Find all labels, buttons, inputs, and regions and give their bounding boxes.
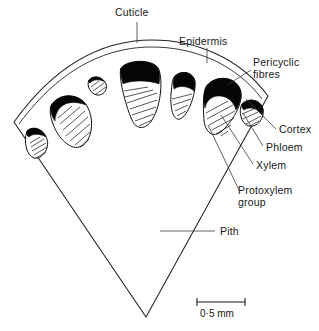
label-cuticle: Cuticle (115, 6, 149, 18)
bundle-right-inner (171, 72, 195, 119)
bundle-far-left (25, 128, 47, 158)
label-pith: Pith (220, 225, 239, 237)
stem-section-diagram: Cuticle Epidermis Pericyclic fibres Cort… (0, 0, 319, 331)
label-cortex: Cortex (279, 123, 312, 135)
label-epidermis: Epidermis (179, 35, 227, 47)
label-protoxylem-line1: Protoxylem (238, 184, 293, 196)
label-pericyclic-fibres-line2: fibres (253, 68, 280, 80)
label-phloem: Phloem (266, 141, 303, 153)
label-protoxylem-line2: group (238, 196, 266, 208)
scale-bar: 0·5 mm (197, 298, 245, 319)
label-pericyclic-fibres-line1: Pericyclic (253, 56, 299, 68)
label-xylem: Xylem (256, 159, 286, 171)
bundle-center (120, 61, 161, 127)
pericyclic-fibre-cap (121, 61, 160, 84)
bundle-left-small (88, 77, 106, 95)
scale-bar-label: 0·5 mm (200, 308, 234, 319)
bundle-left (50, 96, 91, 148)
